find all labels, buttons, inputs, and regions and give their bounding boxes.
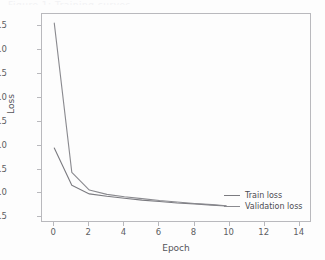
legend-item[interactable]: Validation loss — [224, 201, 322, 212]
chart-figure: Figure 1: Training curves 0.51.01.52.02.… — [0, 0, 325, 260]
x-tick-label: 10 — [217, 228, 241, 237]
x-tick-label: 2 — [76, 228, 100, 237]
x-tick-label: 14 — [287, 228, 311, 237]
y-tick-label: 0.5 — [0, 212, 7, 221]
y-tick-label: 1.5 — [0, 165, 7, 174]
series-line-2 — [54, 23, 226, 206]
y-tick-label: 2.0 — [0, 141, 7, 150]
legend-label: Train loss — [245, 190, 282, 201]
x-tick-label: 4 — [111, 228, 135, 237]
x-tick-label: 12 — [252, 228, 276, 237]
x-axis-title: Epoch — [41, 243, 311, 253]
y-tick-label: 1.0 — [0, 188, 7, 197]
legend-line-swatch-2 — [224, 206, 240, 207]
y-tick-label: 4.5 — [0, 21, 7, 30]
legend-line-swatch-1 — [224, 195, 240, 196]
x-tick-label: 0 — [41, 228, 65, 237]
chart-legend: Train lossValidation loss — [224, 190, 322, 212]
y-tick-label: 3.5 — [0, 69, 7, 78]
x-tick-label: 8 — [182, 228, 206, 237]
y-axis-title: Loss — [6, 94, 16, 114]
y-tick-label: 4.0 — [0, 45, 7, 54]
legend-item[interactable]: Train loss — [224, 190, 322, 201]
x-tick-label: 6 — [146, 228, 170, 237]
series-line-1 — [54, 148, 226, 206]
y-tick-label: 2.5 — [0, 117, 7, 126]
legend-label: Validation loss — [245, 201, 303, 212]
cropped-caption-text: Figure 1: Training curves — [8, 0, 238, 5]
